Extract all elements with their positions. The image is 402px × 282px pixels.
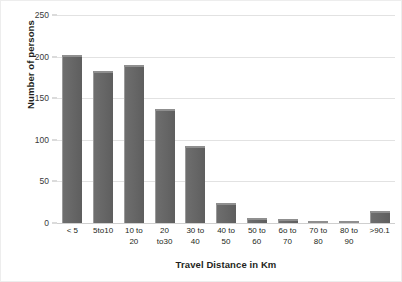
y-tick-label-100: 100 — [19, 135, 49, 145]
bar-series — [57, 15, 395, 223]
x-tick-label: 30 to 40 — [180, 226, 211, 247]
x-axis-tick-labels: < 55to1010 to 2020 to3030 to 4040 to 505… — [57, 226, 395, 247]
bar-slot — [180, 15, 211, 223]
y-tick-mark-0 — [52, 223, 57, 224]
bar-slot — [88, 15, 119, 223]
bar-slot — [149, 15, 180, 223]
bar — [185, 146, 205, 223]
y-tick-mark-50 — [52, 181, 57, 182]
y-tick-label-200: 200 — [19, 52, 49, 62]
x-tick-label: 6o to 70 — [272, 226, 303, 247]
bar-slot — [118, 15, 149, 223]
bar — [216, 203, 236, 223]
y-axis-title: Number of persons — [25, 0, 36, 145]
y-tick-label-250: 250 — [19, 10, 49, 20]
bar — [278, 219, 298, 223]
bar — [370, 211, 390, 223]
y-tick-label-150: 150 — [19, 93, 49, 103]
bar-slot — [57, 15, 88, 223]
bar — [62, 55, 82, 223]
x-tick-label: >90.1 — [364, 226, 395, 247]
y-tick-mark-200 — [52, 56, 57, 57]
x-axis-title: Travel Distance in Km — [57, 259, 395, 270]
x-tick-label: < 5 — [57, 226, 88, 247]
bar-slot — [364, 15, 395, 223]
bar — [308, 221, 328, 223]
x-tick-label: 80 to 90 — [334, 226, 365, 247]
bar-slot — [272, 15, 303, 223]
x-tick-label: 10 to 20 — [118, 226, 149, 247]
x-tick-label: 5to10 — [88, 226, 119, 247]
bar — [339, 221, 359, 223]
gridline-0 — [57, 223, 395, 224]
bar — [155, 109, 175, 223]
bar — [124, 65, 144, 223]
y-tick-mark-250 — [52, 15, 57, 16]
y-tick-mark-100 — [52, 139, 57, 140]
x-tick-label: 70 to 80 — [303, 226, 334, 247]
x-tick-label: 20 to30 — [149, 226, 180, 247]
bar-slot — [334, 15, 365, 223]
y-tick-label-50: 50 — [19, 176, 49, 186]
bar-slot — [303, 15, 334, 223]
x-tick-label: 40 to 50 — [211, 226, 242, 247]
bar-slot — [241, 15, 272, 223]
bar-slot — [211, 15, 242, 223]
y-tick-label-0: 0 — [19, 218, 49, 228]
bar-chart-figure: Number of persons < 55to1010 to 2020 to3… — [0, 0, 402, 282]
y-tick-mark-150 — [52, 98, 57, 99]
bar — [247, 218, 267, 223]
bar — [93, 71, 113, 223]
x-tick-label: 50 to 60 — [241, 226, 272, 247]
